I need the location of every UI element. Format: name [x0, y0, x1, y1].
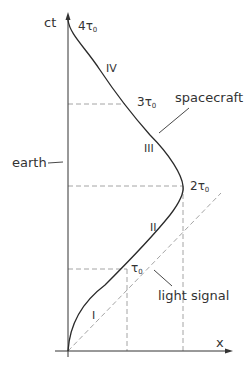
- label-2tau: 2τ0: [190, 180, 209, 194]
- spacecraft-label: spacecraft: [175, 91, 243, 104]
- segment-label-II: II: [150, 222, 157, 233]
- ct-axis-label: ct: [44, 16, 56, 29]
- earth-leader: [48, 162, 63, 163]
- spacecraft-leader: [159, 108, 189, 133]
- light-signal-line: [68, 193, 221, 351]
- label-4tau-sub: 0: [93, 26, 97, 34]
- label-4tau-text: 4τ: [78, 19, 93, 33]
- label-tau: τ0: [131, 262, 143, 276]
- label-2tau-text: 2τ: [190, 179, 205, 193]
- light-signal-leader: [154, 270, 172, 286]
- label-3tau: 3τ0: [137, 96, 156, 110]
- segment-label-I: I: [92, 310, 95, 321]
- leader-lines: [48, 108, 189, 286]
- segment-label-III: III: [144, 143, 154, 154]
- label-4tau: 4τ0: [78, 20, 97, 34]
- segment-label-IV: IV: [106, 63, 117, 74]
- label-2tau-sub: 0: [205, 186, 209, 194]
- label-3tau-sub: 0: [152, 102, 156, 110]
- light-signal-label: light signal: [158, 289, 229, 302]
- x-axis-arrow-icon: [225, 349, 233, 354]
- ct-axis-arrow-icon: [66, 12, 71, 20]
- x-axis-label: x: [216, 336, 224, 349]
- earth-label: earth: [12, 156, 47, 169]
- label-3tau-text: 3τ: [137, 95, 152, 109]
- label-tau-sub: 0: [138, 268, 142, 276]
